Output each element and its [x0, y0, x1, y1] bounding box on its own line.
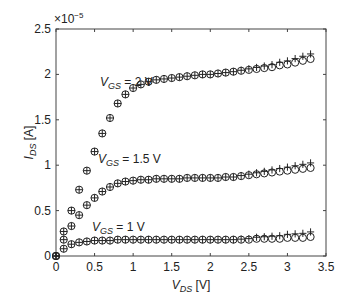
y-tick-label: 2.5 [34, 22, 51, 36]
x-tick-label: 0.5 [86, 260, 103, 274]
x-tick-label: 3.5 [318, 260, 335, 274]
x-tick-label: 3 [284, 260, 291, 274]
iv-characteristics-chart: 00.511.522.533.500.511.522.5×10−5VDS [V]… [0, 0, 349, 301]
axes: 00.511.522.533.500.511.522.5×10−5VDS [V]… [22, 11, 335, 294]
curve-label: VGS = 1.5 V [98, 152, 161, 168]
annotations: VGS = 2 VVGS = 1.5 VVGS = 1 V [92, 75, 161, 236]
y-tick-label: 0.5 [34, 204, 51, 218]
curve-label: VGS = 1 V [92, 220, 145, 236]
x-tick-label: 1 [130, 260, 137, 274]
x-tick-label: 1.5 [163, 260, 180, 274]
y-axis-label: IDS [A] [22, 126, 38, 160]
x-tick-label: 2 [207, 260, 214, 274]
curve-label: VGS = 2 V [100, 75, 153, 91]
y-tick-label: 0 [44, 249, 51, 263]
y-tick-label: 1.5 [34, 113, 51, 127]
x-tick-label: 2.5 [241, 260, 258, 274]
x-tick-label: 0 [53, 260, 60, 274]
y-tick-label: 1 [44, 158, 51, 172]
x-axis-label: VDS [V] [172, 278, 211, 294]
y-tick-label: 2 [44, 67, 51, 81]
y-axis-multiplier: ×10−5 [54, 11, 84, 26]
